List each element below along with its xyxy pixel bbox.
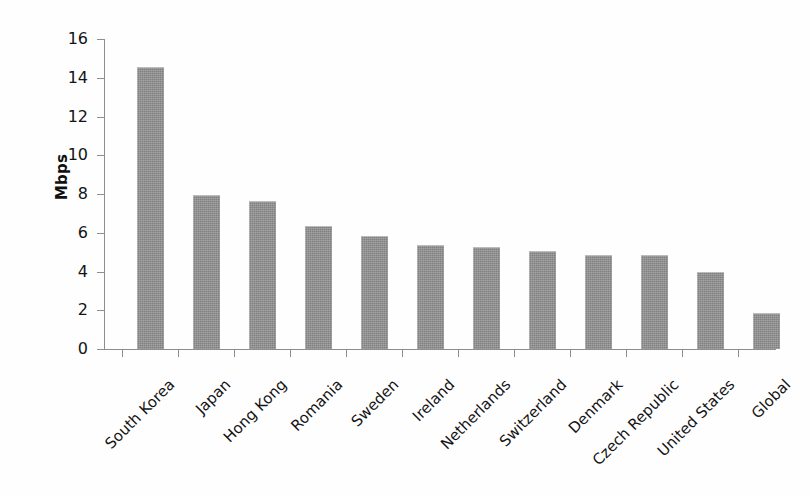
y-axis-tick: 10 <box>97 155 104 156</box>
y-axis-tick-label: 4 <box>78 262 88 281</box>
y-axis-tick: 6 <box>97 233 104 234</box>
y-axis-tick: 16 <box>97 39 104 40</box>
x-axis-tick <box>458 350 459 357</box>
x-axis-tick <box>122 350 123 357</box>
y-axis-tick-label: 8 <box>78 184 88 203</box>
x-axis-label[interactable]: Ireland <box>409 376 458 425</box>
x-axis-tick <box>626 350 627 357</box>
y-axis-tick: 8 <box>97 194 104 195</box>
y-axis-tick: 0 <box>97 349 104 350</box>
x-axis-tick <box>402 350 403 357</box>
x-axis-tick <box>290 350 291 357</box>
y-axis-tick-label: 14 <box>68 68 88 87</box>
y-axis-tick-label: 16 <box>68 29 88 48</box>
x-axis-label[interactable]: Sweden <box>348 376 403 431</box>
x-axis-label[interactable]: Romania <box>287 376 346 435</box>
y-axis-tick-label: 2 <box>78 300 88 319</box>
x-axis-tick <box>738 350 739 357</box>
y-axis-tick: 2 <box>97 310 104 311</box>
y-axis-tick-label: 12 <box>68 107 88 126</box>
x-axis-label[interactable]: South Korea <box>101 376 178 453</box>
y-axis-tick: 12 <box>97 117 104 118</box>
y-axis-line <box>104 39 105 350</box>
x-axis-tick <box>234 350 235 357</box>
y-axis-tick: 14 <box>97 78 104 79</box>
x-axis-tick <box>346 350 347 357</box>
plot-area: 0246810121416 <box>104 30 776 360</box>
x-axis-label[interactable]: Global <box>748 376 795 423</box>
x-axis-tick <box>178 350 179 357</box>
y-axis-tick-label: 0 <box>78 339 88 358</box>
bar[interactable] <box>361 236 388 349</box>
bar[interactable] <box>473 247 500 349</box>
x-axis-label[interactable]: Japan <box>192 376 234 418</box>
bar[interactable] <box>641 255 668 349</box>
y-axis-tick-label: 10 <box>68 145 88 164</box>
bar[interactable] <box>697 272 724 349</box>
bar-chart: Mbps 0246810121416 South KoreaJapanHong … <box>0 0 810 496</box>
bar[interactable] <box>305 226 332 349</box>
x-axis-tick <box>514 350 515 357</box>
bar[interactable] <box>137 67 164 349</box>
y-axis-tick-label: 6 <box>78 223 88 242</box>
x-axis-line <box>104 349 776 350</box>
y-axis-tick: 4 <box>97 272 104 273</box>
bar[interactable] <box>585 255 612 349</box>
x-axis-tick <box>682 350 683 357</box>
bar[interactable] <box>249 201 276 349</box>
bar[interactable] <box>193 195 220 349</box>
bar[interactable] <box>417 245 444 349</box>
x-axis-tick <box>570 350 571 357</box>
bar[interactable] <box>753 313 780 349</box>
bar[interactable] <box>529 251 556 349</box>
